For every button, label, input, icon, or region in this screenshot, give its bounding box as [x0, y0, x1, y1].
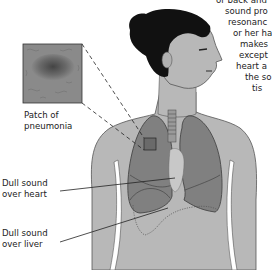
side-text-line: makes	[240, 39, 268, 50]
side-text-line: or her ha	[233, 28, 272, 39]
heart-label-line1: Dull sound	[2, 178, 48, 189]
liver-label-line1: Dull sound	[2, 228, 48, 239]
side-text-line: resonanc	[228, 17, 267, 28]
side-text-block: or back and sound pro resonanc or her ha…	[0, 0, 272, 135]
side-text-line: heart a	[236, 61, 267, 72]
side-text-line: sound pro	[225, 6, 268, 17]
side-text-line: tis	[252, 83, 262, 94]
side-text-line: except	[239, 50, 268, 61]
liver-label-line2: over liver	[2, 239, 48, 250]
liver-label: Dull sound over liver	[2, 228, 48, 249]
side-text-line: the so	[245, 72, 272, 83]
heart-label: Dull sound over heart	[2, 178, 48, 199]
heart-label-line2: over heart	[2, 189, 48, 200]
figure: Patch of pneumonia Dull sound over heart…	[0, 0, 272, 270]
pneumonia-marker	[144, 138, 156, 150]
